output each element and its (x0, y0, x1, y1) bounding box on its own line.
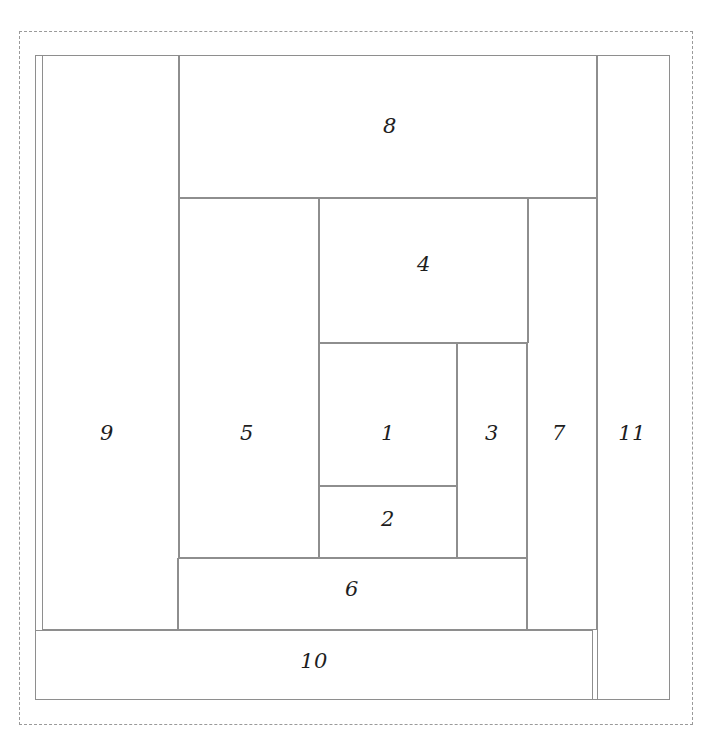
piece-11-label: 11 (618, 423, 646, 444)
piece-1-label: 1 (381, 423, 395, 444)
piece-9[interactable] (42, 55, 179, 630)
piece-6-label: 6 (345, 579, 359, 600)
piece-9-label: 9 (100, 423, 114, 444)
piece-5-label: 5 (240, 423, 254, 444)
pattern-canvas: 1234567891011 (0, 0, 714, 745)
piece-7[interactable] (527, 198, 597, 630)
piece-4-label: 4 (417, 254, 431, 275)
piece-8-label: 8 (383, 116, 397, 137)
piece-1[interactable] (319, 343, 457, 486)
piece-5[interactable] (179, 198, 319, 558)
piece-3-label: 3 (485, 423, 499, 444)
piece-11[interactable] (597, 55, 670, 700)
piece-2-label: 2 (381, 509, 395, 530)
piece-3[interactable] (457, 343, 527, 558)
piece-7-label: 7 (552, 423, 566, 444)
piece-10-label: 10 (300, 651, 328, 672)
